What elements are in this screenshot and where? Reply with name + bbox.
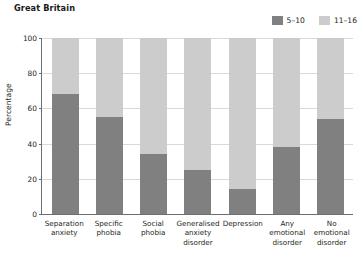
bar-segment-5-10[interactable] bbox=[140, 154, 167, 214]
y-tick-mark bbox=[39, 179, 42, 180]
bar-column[interactable] bbox=[264, 38, 308, 214]
bar-segment-11-16[interactable] bbox=[184, 38, 211, 170]
page-title: Great Britain bbox=[14, 3, 75, 13]
y-axis-title: Percentage bbox=[4, 83, 13, 126]
bar-segment-11-16[interactable] bbox=[140, 38, 167, 154]
x-axis-labels: Separation anxietySpecific phobiaSocial … bbox=[42, 219, 354, 247]
bar-segment-11-16[interactable] bbox=[229, 38, 256, 189]
x-axis-label: Generalised anxiety disorder bbox=[175, 219, 220, 247]
stacked-bar[interactable] bbox=[317, 38, 344, 214]
y-tick-label: 40 bbox=[28, 139, 37, 148]
bar-column[interactable] bbox=[132, 38, 176, 214]
bar-segment-11-16[interactable] bbox=[52, 38, 79, 94]
x-axis-label: Specific phobia bbox=[86, 219, 130, 247]
x-axis-label: Separation anxiety bbox=[42, 219, 86, 247]
x-axis-label: Depression bbox=[221, 219, 265, 247]
bar-column[interactable] bbox=[87, 38, 131, 214]
bar-segment-5-10[interactable] bbox=[229, 189, 256, 214]
stacked-bar[interactable] bbox=[273, 38, 300, 214]
y-tick-mark bbox=[39, 108, 42, 109]
legend-swatch-icon bbox=[319, 16, 330, 25]
bar-group bbox=[43, 38, 353, 214]
stacked-bar[interactable] bbox=[140, 38, 167, 214]
legend-item-11-16: 11–16 bbox=[319, 16, 357, 25]
legend-item-5-10: 5–10 bbox=[272, 16, 305, 25]
y-tick-mark bbox=[39, 73, 42, 74]
chart-legend: 5–10 11–16 bbox=[272, 16, 357, 25]
stacked-bar[interactable] bbox=[96, 38, 123, 214]
legend-label: 5–10 bbox=[287, 16, 305, 25]
stacked-bar[interactable] bbox=[184, 38, 211, 214]
x-axis-label: Social phobia bbox=[131, 219, 175, 247]
x-axis-label: Any emotional disorder bbox=[265, 219, 309, 247]
y-tick-label: 80 bbox=[28, 69, 37, 78]
plot-area: 020406080100 bbox=[41, 38, 353, 215]
legend-label: 11–16 bbox=[334, 16, 357, 25]
bar-column[interactable] bbox=[309, 38, 353, 214]
y-tick-mark bbox=[39, 214, 42, 215]
stacked-bar[interactable] bbox=[52, 38, 79, 214]
bar-segment-11-16[interactable] bbox=[96, 38, 123, 117]
legend-swatch-icon bbox=[272, 16, 283, 25]
x-axis-label: No emotional disorder bbox=[309, 219, 353, 247]
bar-segment-5-10[interactable] bbox=[96, 117, 123, 214]
bar-column[interactable] bbox=[220, 38, 264, 214]
y-tick-label: 60 bbox=[28, 104, 37, 113]
y-tick-label: 20 bbox=[28, 174, 37, 183]
bar-column[interactable] bbox=[43, 38, 87, 214]
bar-segment-5-10[interactable] bbox=[317, 119, 344, 214]
bar-column[interactable] bbox=[176, 38, 220, 214]
y-tick-mark bbox=[39, 38, 42, 39]
y-tick-label: 0 bbox=[32, 210, 37, 219]
bar-segment-5-10[interactable] bbox=[273, 147, 300, 214]
bar-segment-5-10[interactable] bbox=[52, 94, 79, 214]
stacked-bar[interactable] bbox=[229, 38, 256, 214]
bar-segment-11-16[interactable] bbox=[273, 38, 300, 147]
bar-segment-11-16[interactable] bbox=[317, 38, 344, 119]
y-tick-label: 100 bbox=[23, 34, 37, 43]
y-tick-mark bbox=[39, 144, 42, 145]
bar-segment-5-10[interactable] bbox=[184, 170, 211, 214]
